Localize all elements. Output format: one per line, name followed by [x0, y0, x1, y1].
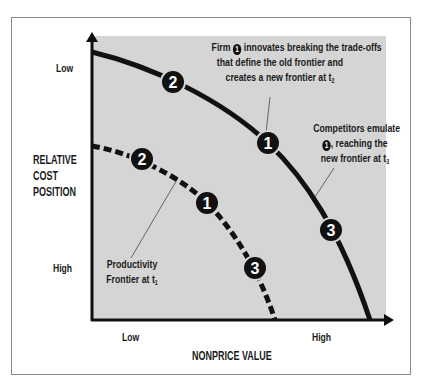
- y-axis-title: RELATIVE COST POSITION: [33, 152, 77, 200]
- annotation-firm-prefix: Firm: [212, 41, 231, 53]
- annotation-competitors-line3: new frontier at t: [321, 152, 387, 164]
- y-axis-title-line-3: POSITION: [33, 184, 77, 200]
- y-axis-title-line-1: RELATIVE: [33, 152, 77, 168]
- x-axis-arrow-icon: [384, 314, 394, 326]
- x-tick-low: Low: [122, 331, 139, 344]
- marker-new-1: 1: [256, 131, 280, 155]
- marker-old-3: 3: [243, 256, 267, 280]
- annotation-competitors: Competitors emulate 1, reaching the new …: [313, 121, 397, 169]
- annotation-firm-line1: innovates breaking the trade-offs: [244, 41, 382, 53]
- annotation-firm-sub: 2: [331, 77, 334, 84]
- annotation-productivity-sub: 1: [155, 279, 158, 286]
- marker-new-3: 3: [319, 218, 343, 242]
- marker-old-2-label: 2: [138, 151, 147, 168]
- annotation-productivity-line2: Frontier at t: [106, 273, 155, 285]
- marker-new-1-label: 1: [264, 135, 273, 152]
- annotation-competitors-line1: Competitors emulate: [313, 121, 397, 136]
- annotation-firm-line3: creates a new frontier at t: [226, 71, 332, 83]
- annotation-competitors-sub: 3: [386, 158, 389, 165]
- marker-old-1-label: 1: [203, 195, 212, 212]
- y-tick-high: High: [53, 262, 72, 275]
- annotation-firm-innovates: Firm 1 innovates breaking the trade-offs…: [212, 40, 349, 88]
- marker-old-3-label: 3: [251, 260, 260, 277]
- y-axis-title-line-2: COST: [33, 168, 77, 184]
- x-axis-title: NONPRICE VALUE: [192, 349, 272, 363]
- annotation-competitors-line2: , reaching the: [331, 137, 388, 149]
- competitors-badge-icon: 1: [322, 140, 330, 151]
- marker-new-3-label: 3: [327, 222, 336, 239]
- y-tick-low: Low: [56, 62, 73, 75]
- annotation-productivity-frontier: Productivity Frontier at t1: [102, 257, 163, 290]
- x-tick-high: High: [312, 331, 331, 344]
- marker-old-1: 1: [195, 191, 219, 215]
- marker-new-2-label: 2: [169, 74, 178, 91]
- annotation-productivity-line1: Productivity: [102, 257, 163, 272]
- marker-new-2: 2: [161, 70, 185, 94]
- firm-badge-icon: 1: [233, 44, 241, 55]
- annotation-firm-line2: that define the old frontier and: [212, 55, 349, 70]
- marker-old-2: 2: [130, 147, 154, 171]
